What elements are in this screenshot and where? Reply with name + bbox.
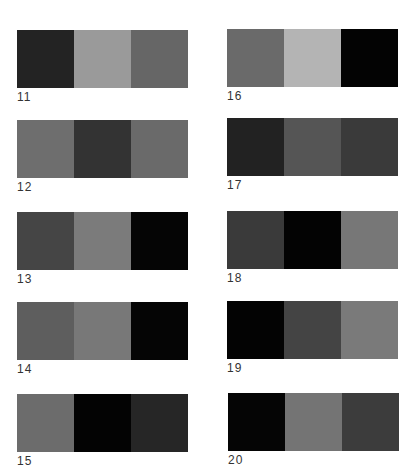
swatch-card-13: 13 xyxy=(17,212,188,286)
color-segment xyxy=(341,29,398,87)
color-segment xyxy=(74,212,131,270)
color-segment xyxy=(227,301,284,359)
color-segment xyxy=(284,211,341,269)
swatch-label: 18 xyxy=(227,271,398,285)
color-segment xyxy=(131,30,188,88)
swatch-label: 15 xyxy=(17,454,188,468)
color-strip xyxy=(17,120,188,178)
color-strip xyxy=(227,118,398,176)
swatch-label: 19 xyxy=(227,361,398,375)
color-strip xyxy=(228,393,399,451)
color-strip xyxy=(227,301,398,359)
swatch-label: 13 xyxy=(17,272,188,286)
swatch-card-19: 19 xyxy=(227,301,398,375)
color-segment xyxy=(74,394,131,452)
color-segment xyxy=(341,118,398,176)
swatch-card-18: 18 xyxy=(227,211,398,285)
color-segment xyxy=(227,118,284,176)
color-segment xyxy=(341,211,398,269)
color-segment xyxy=(131,212,188,270)
swatch-label: 14 xyxy=(17,362,188,376)
color-strip xyxy=(17,302,188,360)
color-segment xyxy=(17,394,74,452)
swatch-card-20: 20 xyxy=(228,393,399,467)
color-strip xyxy=(17,30,188,88)
color-segment xyxy=(284,118,341,176)
color-segment xyxy=(284,29,341,87)
color-segment xyxy=(17,30,74,88)
color-segment xyxy=(17,212,74,270)
color-strip xyxy=(17,394,188,452)
color-segment xyxy=(74,302,131,360)
swatch-label: 11 xyxy=(17,90,188,104)
color-strip xyxy=(227,211,398,269)
color-strip xyxy=(227,29,398,87)
swatch-card-15: 15 xyxy=(17,394,188,468)
color-segment xyxy=(131,302,188,360)
color-segment xyxy=(17,302,74,360)
color-segment xyxy=(17,120,74,178)
color-segment xyxy=(285,393,342,451)
color-segment xyxy=(342,393,399,451)
color-segment xyxy=(227,29,284,87)
color-strip xyxy=(17,212,188,270)
swatch-card-14: 14 xyxy=(17,302,188,376)
color-segment xyxy=(131,394,188,452)
swatch-card-12: 12 xyxy=(17,120,188,194)
swatch-label: 17 xyxy=(227,178,398,192)
color-segment xyxy=(341,301,398,359)
swatch-card-17: 17 xyxy=(227,118,398,192)
swatch-label: 20 xyxy=(228,453,399,467)
swatch-card-16: 16 xyxy=(227,29,398,103)
swatch-card-11: 11 xyxy=(17,30,188,104)
color-segment xyxy=(284,301,341,359)
color-segment xyxy=(228,393,285,451)
color-segment xyxy=(74,30,131,88)
swatch-label: 12 xyxy=(17,180,188,194)
swatch-label: 16 xyxy=(227,89,398,103)
color-segment xyxy=(227,211,284,269)
color-segment xyxy=(131,120,188,178)
color-segment xyxy=(74,120,131,178)
